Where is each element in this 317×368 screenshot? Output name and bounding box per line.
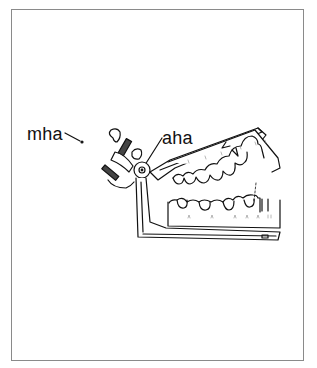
mha-pointer-arrow [65,133,83,143]
articulator-illustration [0,0,317,368]
lower-denture [168,183,280,228]
